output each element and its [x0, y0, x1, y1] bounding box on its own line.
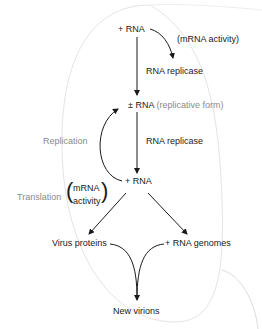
cell-outline — [62, 5, 223, 322]
arrow-proteins-to-virions — [110, 244, 137, 298]
arrow-to-rna-genomes — [148, 193, 187, 234]
node-rna-genomes: + RNA genomes — [165, 238, 231, 249]
node-virus-proteins: Virus proteins — [52, 238, 107, 249]
node-plus-rna-mid: + RNA — [125, 176, 152, 187]
paren-close: ) — [101, 180, 108, 202]
label-rna-replicase-2: RNA replicase — [146, 136, 203, 147]
label-translation: Translation — [17, 192, 61, 203]
label-mrna-activity-line1: mRNA — [73, 183, 100, 194]
cell-outline-top — [150, 5, 262, 10]
node-plus-rna-top: + RNA — [118, 24, 145, 35]
label-replication: Replication — [43, 136, 88, 147]
label-rna-replicase-1: RNA replicase — [146, 66, 203, 77]
node-pm-rna-suffix: (replicative form) — [156, 100, 223, 110]
cell-outline-tail — [222, 270, 258, 329]
node-pm-rna-prefix: ± RNA — [128, 100, 154, 110]
label-mrna-activity-top: (mRNA activity) — [177, 34, 239, 45]
arrow-replication — [100, 109, 122, 181]
arrow-mrna-activity-top — [150, 29, 173, 58]
node-new-virions: New virions — [113, 306, 160, 317]
diagram-canvas — [0, 0, 262, 329]
node-pm-rna: ± RNA (replicative form) — [128, 100, 223, 111]
label-mrna-activity-line2: activity — [73, 196, 101, 207]
arrow-genomes-to-virions — [137, 244, 164, 300]
